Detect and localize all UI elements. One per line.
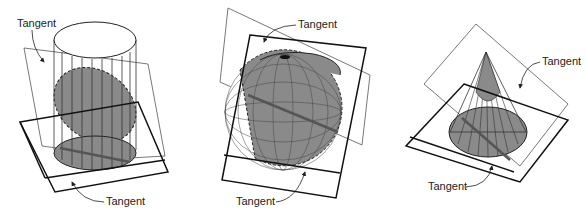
projection-surfaces-diagram: Tangent Tangent Tangent Tangent bbox=[0, 0, 586, 221]
tangent-label-bottom: Tangent bbox=[428, 180, 467, 192]
cone-figure: Tangent Tangent bbox=[406, 24, 581, 192]
tangent-label-top: Tangent bbox=[17, 17, 56, 29]
tangent-label-top: Tangent bbox=[298, 18, 337, 30]
tangent-label-bottom: Tangent bbox=[236, 195, 275, 207]
cylinder-figure: Tangent Tangent bbox=[17, 17, 168, 207]
tangent-label-bottom: Tangent bbox=[106, 195, 145, 207]
tangent-label-top: Tangent bbox=[542, 55, 581, 67]
sphere-figure: Tangent Tangent bbox=[220, 8, 370, 207]
